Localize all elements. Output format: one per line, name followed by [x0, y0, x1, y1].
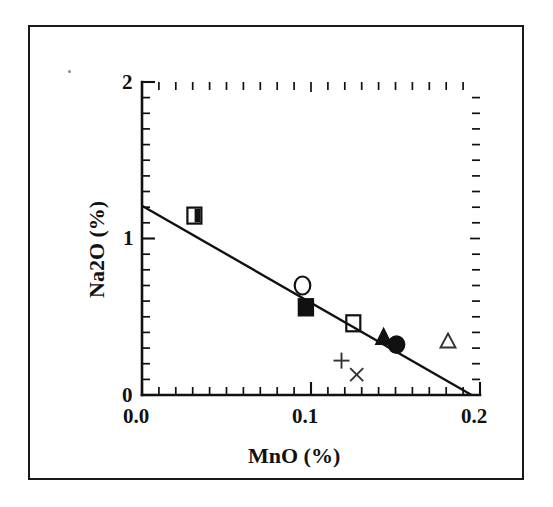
data-point-filled-circle: [388, 336, 404, 353]
x-tick-label-0: 0.0: [123, 404, 149, 429]
y-axis-ticks: [142, 82, 155, 395]
right-axis-ticks: [470, 98, 480, 380]
data-point-open-circle: [295, 277, 311, 295]
y-tick-label-2: 2: [122, 70, 133, 95]
data-point-filled-square: [298, 299, 313, 316]
y-axis-title: Na2O (%): [84, 201, 110, 298]
figure-canvas: 2 1 0 0.0 0.1 0.2 MnO (%) Na2O (%): [0, 0, 553, 507]
data-point-plus: [334, 353, 350, 369]
data-point-cross: [350, 368, 363, 381]
x-tick-label-2: 0.2: [461, 404, 487, 429]
x-axis-ticks: [142, 382, 480, 395]
data-point-open-triangle: [441, 334, 456, 348]
y-tick-label-1: 1: [123, 226, 134, 251]
data-point-half-filled-square: [187, 208, 201, 224]
x-tick-label-1: 0.1: [292, 404, 318, 429]
plot-area: [0, 0, 553, 507]
x-axis-title: MnO (%): [248, 443, 340, 469]
top-axis-ticks: [159, 82, 463, 92]
axes-spines: [142, 82, 480, 395]
